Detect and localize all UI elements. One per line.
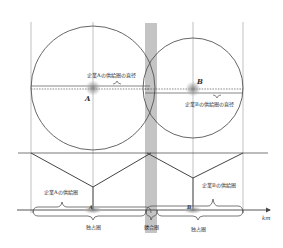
competition-zone-label: 競合圏: [144, 224, 159, 231]
point-b-label: B: [196, 77, 203, 86]
area-b-label: 企業Bの供給圏: [202, 182, 236, 189]
axis-point-b-label: B: [186, 204, 191, 210]
diameter-a-label: 企業Aの供給圏の直径: [87, 72, 136, 79]
brace-diameter-a: [113, 81, 121, 84]
competition-band: [145, 23, 157, 233]
company-b-axis-marker: [183, 206, 203, 214]
brace-diameter-b: [213, 95, 221, 98]
diameter-b-label: 企業Bの供給圏の直径: [185, 101, 234, 108]
price-curve-b: [147, 153, 243, 178]
area-a-label: 企業Aの供給圏: [44, 189, 78, 196]
monopoly-zone-left-label: 独占圏: [86, 224, 101, 231]
axis-unit-label: km: [262, 215, 271, 221]
point-a-label: A: [84, 94, 91, 103]
monopoly-zone-right-label: 独占圏: [191, 226, 206, 233]
supply-area-diagram: A B 企業Aの供給圏の直径 企業Bの供給圏の直径 企業Aの供給圏 企業Bの供給…: [0, 0, 283, 248]
price-curve-a: [31, 153, 151, 187]
axis-point-a-label: A: [88, 204, 93, 210]
company-a-axis-marker: [83, 206, 103, 214]
